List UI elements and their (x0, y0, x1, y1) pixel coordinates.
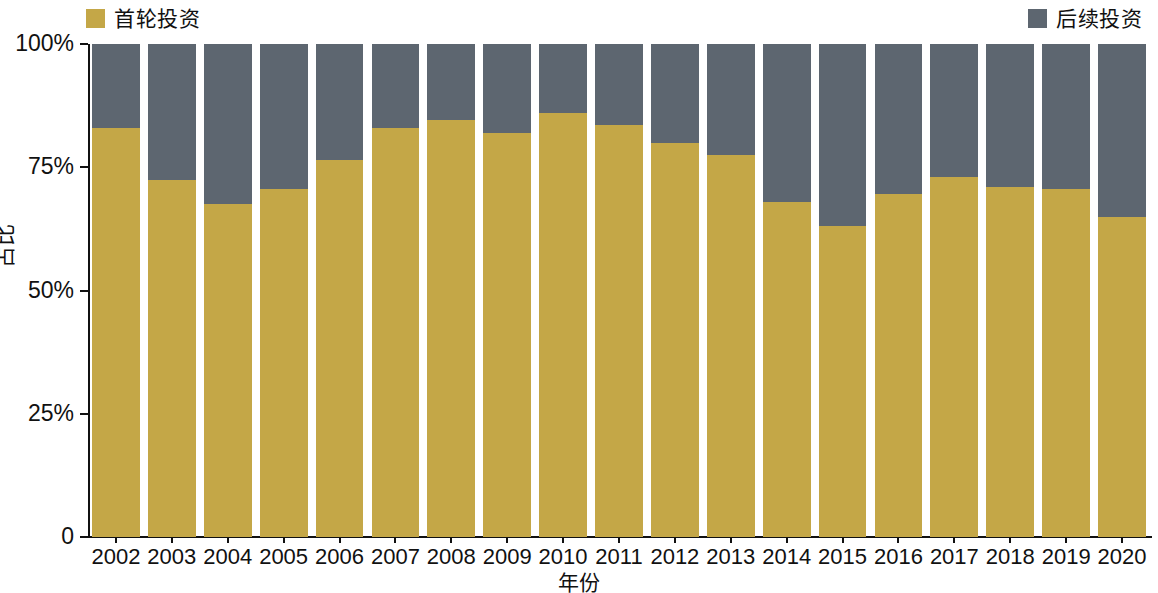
x-tick-mark (171, 538, 173, 543)
bar-segment-first-round[interactable] (372, 128, 420, 537)
bar-segment-first-round[interactable] (1098, 217, 1146, 537)
bar-segment-follow-on[interactable] (427, 44, 475, 120)
legend-swatch-first-round (86, 9, 105, 28)
legend-item-follow-on[interactable]: 后续投资 (1028, 8, 1142, 29)
x-tick-label: 2003 (142, 546, 202, 568)
x-tick-mark (1121, 538, 1123, 543)
bar-stack[interactable] (372, 44, 420, 537)
bar-segment-first-round[interactable] (819, 226, 867, 537)
bar-segment-first-round[interactable] (595, 125, 643, 537)
bar-stack[interactable] (1042, 44, 1090, 537)
bar-stack[interactable] (651, 44, 699, 537)
bar-segment-follow-on[interactable] (260, 44, 308, 189)
x-tick-label: 2020 (1092, 546, 1152, 568)
bar-stack[interactable] (763, 44, 811, 537)
x-tick-label: 2015 (813, 546, 873, 568)
x-tick-label: 2005 (254, 546, 314, 568)
y-tick-label: 0 (61, 525, 74, 548)
x-tick-mark (283, 538, 285, 543)
bar-stack[interactable] (483, 44, 531, 537)
y-tick-mark (80, 43, 88, 45)
bar-segment-first-round[interactable] (875, 194, 923, 537)
x-tick-mark (786, 538, 788, 543)
x-tick-mark (115, 538, 117, 543)
x-tick-mark (1009, 538, 1011, 543)
bar-segment-first-round[interactable] (260, 189, 308, 537)
bar-segment-first-round[interactable] (763, 202, 811, 537)
bar-segment-first-round[interactable] (316, 160, 364, 537)
bar-segment-first-round[interactable] (651, 143, 699, 537)
bar-segment-follow-on[interactable] (539, 44, 587, 113)
bar-segment-first-round[interactable] (707, 155, 755, 537)
y-tick-mark (80, 290, 88, 292)
x-tick-mark (897, 538, 899, 543)
x-tick-label: 2002 (86, 546, 146, 568)
bar-segment-follow-on[interactable] (316, 44, 364, 160)
bar-segment-follow-on[interactable] (92, 44, 140, 128)
bar-stack[interactable] (148, 44, 196, 537)
bar-segment-follow-on[interactable] (372, 44, 420, 128)
bar-segment-first-round[interactable] (204, 204, 252, 537)
bar-segment-first-round[interactable] (483, 133, 531, 537)
bar-segment-follow-on[interactable] (1098, 44, 1146, 217)
bar-segment-follow-on[interactable] (651, 44, 699, 143)
y-tick-label: 75% (28, 155, 74, 178)
bar-segment-follow-on[interactable] (763, 44, 811, 202)
bar-stack[interactable] (1098, 44, 1146, 537)
bar-segment-follow-on[interactable] (819, 44, 867, 226)
x-tick-label: 2017 (924, 546, 984, 568)
bar-segment-first-round[interactable] (539, 113, 587, 537)
bar-segment-first-round[interactable] (92, 128, 140, 537)
y-tick-mark (80, 413, 88, 415)
x-tick-label: 2013 (701, 546, 761, 568)
x-axis-title: 年份 (0, 572, 1158, 593)
y-tick-label: 25% (28, 402, 74, 425)
x-tick-mark (618, 538, 620, 543)
bar-segment-first-round[interactable] (986, 187, 1034, 537)
bar-stack[interactable] (707, 44, 755, 537)
x-tick-label: 2018 (980, 546, 1040, 568)
bar-segment-follow-on[interactable] (986, 44, 1034, 187)
bar-stack[interactable] (316, 44, 364, 537)
bar-segment-first-round[interactable] (427, 120, 475, 537)
legend-label-first-round: 首轮投资 (114, 8, 200, 29)
bar-stack[interactable] (260, 44, 308, 537)
bar-segment-follow-on[interactable] (483, 44, 531, 133)
x-tick-mark (339, 538, 341, 543)
bar-segment-follow-on[interactable] (1042, 44, 1090, 189)
x-tick-label: 2011 (589, 546, 649, 568)
x-tick-label: 2009 (477, 546, 537, 568)
bar-stack[interactable] (875, 44, 923, 537)
bar-stack[interactable] (930, 44, 978, 537)
bar-stack[interactable] (595, 44, 643, 537)
stacked-bar-chart: 首轮投资 后续投资 025%50%75%100% 占比 200220032004… (0, 0, 1158, 593)
x-tick-mark (730, 538, 732, 543)
y-axis-title: 占比 (0, 224, 16, 268)
bar-segment-follow-on[interactable] (707, 44, 755, 155)
x-tick-mark (674, 538, 676, 543)
bar-segment-follow-on[interactable] (930, 44, 978, 177)
bar-segment-first-round[interactable] (1042, 189, 1090, 537)
bar-segment-first-round[interactable] (930, 177, 978, 537)
x-tick-mark (227, 538, 229, 543)
bar-stack[interactable] (427, 44, 475, 537)
bar-stack[interactable] (539, 44, 587, 537)
bar-stack[interactable] (92, 44, 140, 537)
x-tick-mark (394, 538, 396, 543)
x-tick-mark (506, 538, 508, 543)
x-tick-mark (842, 538, 844, 543)
y-tick-mark (80, 536, 88, 538)
bar-stack[interactable] (819, 44, 867, 537)
x-tick-label: 2008 (421, 546, 481, 568)
bar-segment-follow-on[interactable] (204, 44, 252, 204)
bar-segment-follow-on[interactable] (595, 44, 643, 125)
bar-segment-first-round[interactable] (148, 180, 196, 537)
bar-stack[interactable] (986, 44, 1034, 537)
legend-item-first-round[interactable]: 首轮投资 (86, 8, 200, 29)
bar-stack[interactable] (204, 44, 252, 537)
bar-segment-follow-on[interactable] (875, 44, 923, 194)
x-tick-label: 2006 (310, 546, 370, 568)
x-tick-label: 2007 (365, 546, 425, 568)
bar-segment-follow-on[interactable] (148, 44, 196, 180)
x-tick-mark (450, 538, 452, 543)
